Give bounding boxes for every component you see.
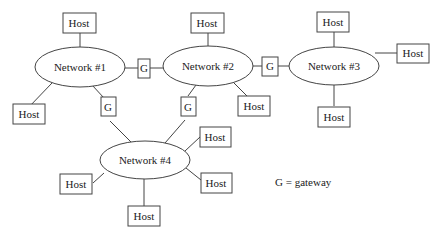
- host-label: Host: [403, 47, 424, 59]
- gateway-label: G: [266, 60, 274, 72]
- gateway-2-3: G: [262, 57, 278, 76]
- gateway-label: G: [104, 101, 112, 113]
- network-1: Network #1: [35, 47, 125, 87]
- host-label: Host: [134, 210, 155, 222]
- host-label: Host: [324, 111, 345, 123]
- network-1-label: Network #1: [54, 61, 106, 73]
- host-label: Host: [323, 16, 344, 28]
- host-n1-top: Host: [63, 13, 96, 33]
- host-n2-right: Host: [238, 96, 270, 116]
- host-n3-right: Host: [397, 44, 429, 63]
- host-n2-top: Host: [191, 13, 224, 33]
- gateway-1-2: G: [138, 59, 150, 78]
- host-n4-left: Host: [60, 174, 92, 194]
- host-n3-top: Host: [317, 12, 349, 32]
- host-label: Host: [244, 100, 265, 112]
- network-2: Network #2: [163, 46, 253, 86]
- gateway-1-4: G: [101, 97, 116, 116]
- network-diagram: Network #1 Network #2 Network #3 Network…: [0, 0, 436, 233]
- host-n1-left: Host: [13, 104, 45, 124]
- network-4-label: Network #4: [119, 154, 172, 166]
- network-3: Network #3: [289, 47, 379, 85]
- host-label: Host: [66, 178, 87, 190]
- host-label: Host: [19, 108, 40, 120]
- gateway-2-4: G: [181, 97, 196, 116]
- host-label: Host: [69, 17, 90, 29]
- host-label: Host: [205, 131, 226, 143]
- host-label: Host: [197, 17, 218, 29]
- host-n4-bottom: Host: [128, 206, 160, 226]
- network-2-label: Network #2: [182, 60, 234, 72]
- gateway-label: G: [140, 62, 148, 74]
- host-label: Host: [206, 177, 227, 189]
- gateway-label: G: [184, 101, 192, 113]
- host-n4-lower-right: Host: [201, 173, 232, 193]
- host-n3-bottom: Host: [318, 107, 350, 127]
- legend: G = gateway: [275, 176, 332, 188]
- network-3-label: Network #3: [308, 60, 361, 72]
- network-4: Network #4: [100, 141, 190, 179]
- host-n4-upper-right: Host: [200, 127, 231, 147]
